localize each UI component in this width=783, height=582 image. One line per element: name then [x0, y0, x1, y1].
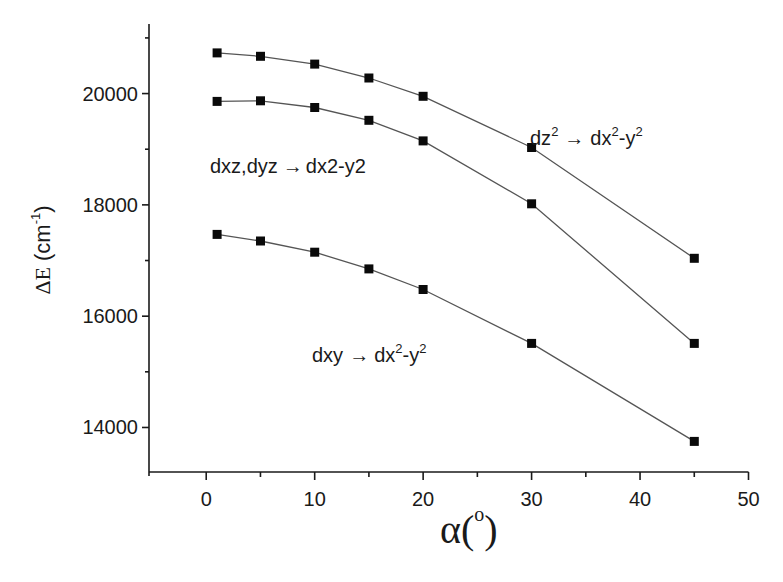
data-point [527, 339, 536, 348]
chart: 14000160001800020000 01020304050 dz2→dx2… [0, 0, 783, 582]
data-point [310, 248, 319, 257]
data-point [690, 254, 699, 263]
annotation-dxz-dyz: dxz,dyz→dx2-y2 [210, 155, 366, 177]
series-layer [213, 48, 699, 446]
data-point [419, 285, 428, 294]
data-point [419, 136, 428, 145]
data-point [310, 60, 319, 69]
data-point [690, 437, 699, 446]
data-point [256, 96, 265, 105]
data-point [419, 92, 428, 101]
data-point [256, 52, 265, 61]
y-axis-title: ΔE(cm-1) [28, 205, 55, 294]
arrow-icon: → [283, 155, 303, 177]
y-tick-label: 16000 [82, 305, 138, 327]
y-ticks: 14000160001800020000 [82, 38, 149, 439]
data-point [213, 48, 222, 57]
y-tick-label: 20000 [82, 83, 138, 105]
y-tick-label: 14000 [82, 416, 138, 438]
data-point [213, 97, 222, 106]
data-point [256, 237, 265, 246]
y-tick-label: 18000 [82, 194, 138, 216]
data-point [527, 199, 536, 208]
series-2 [213, 230, 699, 446]
x-tick-label: 20 [412, 488, 434, 510]
x-tick-label: 0 [201, 488, 212, 510]
annotation-dz2: dz2→dx2-y2 [530, 124, 643, 149]
series-line [217, 234, 694, 441]
x-tick-label: 40 [629, 488, 651, 510]
data-point [364, 74, 373, 83]
x-tick-label: 50 [737, 488, 759, 510]
x-axis-title: α(o) [440, 503, 498, 552]
data-point [690, 339, 699, 348]
data-point [364, 264, 373, 273]
arrow-icon: → [564, 127, 584, 149]
data-point [213, 230, 222, 239]
arrow-icon: → [349, 344, 369, 366]
x-tick-label: 10 [304, 488, 326, 510]
annotation-dxy: dxy→dx2-y2 [312, 341, 426, 366]
data-point [364, 116, 373, 125]
x-tick-label: 30 [520, 488, 542, 510]
data-point [310, 103, 319, 112]
